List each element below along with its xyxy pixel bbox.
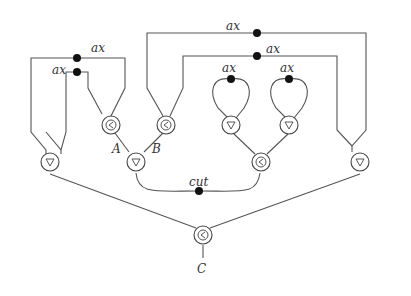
label-B: B (151, 142, 161, 156)
ax-dot (227, 75, 235, 83)
ax-dot (285, 75, 293, 83)
label-ax: ax (266, 42, 280, 56)
par-node-B (157, 116, 175, 134)
label-C: C (197, 262, 206, 276)
label-cut: cut (189, 175, 208, 189)
ax-dot (73, 68, 81, 76)
label-ax: ax (91, 41, 105, 55)
label-ax: ax (226, 19, 240, 33)
tensor-node-left (41, 153, 59, 171)
tensor-node-AB (127, 153, 145, 171)
par-node-A (102, 116, 120, 134)
label-ax: ax (52, 63, 66, 77)
label-ax: ax (222, 61, 236, 75)
par-node-mid (252, 153, 270, 171)
wire-ax-inner-left (61, 72, 77, 150)
proof-net-diagram: ax ax ax ax ax ax cut A B C (0, 0, 411, 296)
tensor-node-loop1 (222, 116, 240, 134)
ax-dot (253, 29, 261, 37)
par-node-C (194, 226, 212, 244)
tensor-node-right (351, 153, 369, 171)
ax-dot (253, 52, 261, 60)
ax-dot (73, 54, 81, 62)
loop-2 (271, 79, 289, 118)
label-ax: ax (280, 61, 294, 75)
wire-ax-outer-right (147, 33, 257, 116)
tensor-node-loop2 (280, 116, 298, 134)
label-A: A (111, 142, 121, 156)
loop-1 (213, 79, 231, 118)
